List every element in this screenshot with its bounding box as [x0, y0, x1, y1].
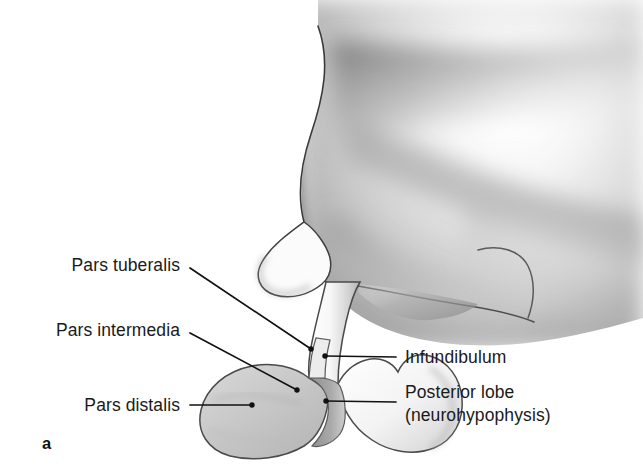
label-pars-distalis: Pars distalis — [84, 394, 180, 417]
leader-infundibulum — [325, 356, 396, 357]
leader-posterior-lobe — [326, 401, 396, 402]
label-posterior-lobe: Posterior lobe (neurohypophysis) — [405, 381, 551, 427]
label-infundibulum: Infundibulum — [405, 346, 506, 369]
panel-letter: a — [42, 434, 51, 453]
pituitary-gland-figure: Pars tuberalis Pars intermedia Pars dist… — [0, 0, 643, 468]
label-pars-intermedia: Pars intermedia — [56, 319, 180, 342]
label-posterior-lobe-line2: (neurohypophysis) — [405, 404, 551, 427]
pars-distalis-shape — [200, 365, 328, 459]
label-posterior-lobe-line1: Posterior lobe — [405, 381, 551, 404]
label-pars-tuberalis: Pars tuberalis — [72, 254, 180, 277]
